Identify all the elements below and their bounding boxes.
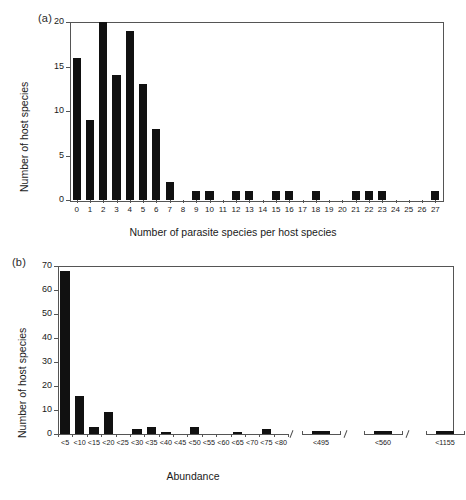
panel-a-x-tick-mark (77, 200, 78, 203)
panel-b-x-tick-mark (259, 434, 260, 437)
panel-a-x-tick-mark (342, 200, 343, 203)
panel-a-x-tick-mark (130, 200, 131, 203)
panel-a-bar (352, 191, 360, 200)
panel-a-x-tick-mark (409, 200, 410, 203)
figure-two-panel-histograms: (a) Number of host species 05101520 0123… (0, 0, 466, 500)
panel-a-x-axis-label: Number of parasite species per host spec… (0, 226, 466, 238)
panel-a-x-tick-mark (249, 200, 250, 203)
panel-a-bar (73, 58, 81, 200)
panel-b-x-tick-mark (58, 434, 59, 437)
panel-b-break-label: <1155 (425, 438, 465, 447)
panel-a-x-tick-mark (329, 200, 330, 203)
panel-b-y-tick-label: 50 (42, 308, 52, 319)
panel-b-x-tick-mark (231, 434, 232, 437)
panel-b-y-tick-mark (54, 410, 58, 411)
panel-b-break-segment-cap (464, 431, 465, 435)
panel-b-x-tick-mark (187, 434, 188, 437)
panel-b-break-segment-axis (364, 434, 402, 435)
panel-a-x-tick-mark (316, 200, 317, 203)
panel-b-x-tick-mark (288, 434, 289, 437)
panel-a-x-tick-mark (435, 200, 436, 203)
panel-a-y-tick-mark (66, 22, 70, 23)
panel-a-x-tick-mark (223, 200, 224, 203)
panel-b-label: (b) (12, 256, 26, 268)
panel-b: (b) Number of host species 0102030405060… (0, 250, 466, 500)
panel-a-y-tick-label: 15 (54, 61, 64, 72)
panel-b-break-segment-cap (302, 431, 303, 435)
panel-b-break-label: <495 (301, 438, 341, 447)
panel-a-bar (192, 191, 200, 200)
panel-b-y-tick-label: 20 (42, 380, 52, 391)
panel-a-bar (86, 120, 94, 200)
panel-b-break-segment-cap (402, 431, 403, 435)
panel-b-y-tick-label: 60 (42, 284, 52, 295)
panel-b-bar (190, 427, 199, 434)
panel-b-y-axis-label: Number of host species (16, 328, 28, 438)
panel-b-y-tick-mark (54, 266, 58, 267)
panel-b-x-tick-mark (202, 434, 203, 437)
panel-a-x-tick-mark (276, 200, 277, 203)
panel-a-bar (232, 191, 240, 200)
panel-b-bar (89, 427, 98, 434)
panel-a-x-tick-mark (156, 200, 157, 203)
panel-b-break-bar (436, 431, 454, 434)
panel-b-x-tick-mark (101, 434, 102, 437)
panel-a-x-tick-mark (103, 200, 104, 203)
panel-a-x-tick-mark (396, 200, 397, 203)
panel-a-x-tick-mark (183, 200, 184, 203)
panel-a-bar (112, 75, 120, 200)
panel-a-bar (205, 191, 213, 200)
panel-a-bar (152, 129, 160, 200)
panel-b-break-segment-cap (364, 431, 365, 435)
panel-b-x-tick-mark (274, 434, 275, 437)
panel-b-y-tick-label: 40 (42, 332, 52, 343)
panel-b-x-tick-mark (130, 434, 131, 437)
panel-a-x-tick-mark (90, 200, 91, 203)
panel-a-bar (378, 191, 386, 200)
panel-b-bar (60, 271, 69, 434)
panel-a-x-tick-mark (356, 200, 357, 203)
panel-a-bar (139, 84, 147, 200)
panel-b-y-tick-label: 10 (42, 404, 52, 415)
panel-b-break-bar (374, 431, 392, 434)
panel-a-x-tick-mark (117, 200, 118, 203)
panel-b-y-tick-mark (54, 386, 58, 387)
panel-a-y-tick-label: 10 (54, 105, 64, 116)
panel-b-break-segment-cap (426, 431, 427, 435)
panel-b-bar (75, 396, 84, 434)
panel-b-break-segment-axis (426, 434, 464, 435)
panel-a-x-tick-mark (170, 200, 171, 203)
panel-a-bar (272, 191, 280, 200)
panel-b-x-tick-label: <80 (267, 438, 295, 448)
panel-a-x-tick-mark (382, 200, 383, 203)
panel-a-bar (245, 191, 253, 200)
panel-a-y-tick-mark (66, 111, 70, 112)
panel-a-x-tick-mark (236, 200, 237, 203)
panel-b-break-segment-cap (340, 431, 341, 435)
panel-a-bar (312, 191, 320, 200)
panel-a-y-tick-mark (66, 156, 70, 157)
panel-a-x-tick-mark (303, 200, 304, 203)
panel-a-y-tick-label: 5 (59, 150, 64, 161)
panel-b-break-label: <560 (363, 438, 403, 447)
panel-a-x-tick-mark (210, 200, 211, 203)
panel-b-x-tick-mark (216, 434, 217, 437)
panel-a-x-tick-mark (289, 200, 290, 203)
panel-b-x-axis-label: Abundance (0, 470, 426, 482)
panel-b-y-tick-mark (54, 314, 58, 315)
panel-a-bar (126, 31, 134, 200)
panel-a-x-tick-mark (422, 200, 423, 203)
panel-b-bar (147, 427, 156, 434)
panel-b-x-tick-mark (159, 434, 160, 437)
panel-a-bar (365, 191, 373, 200)
panel-b-x-tick-mark (144, 434, 145, 437)
panel-b-x-tick-mark (173, 434, 174, 437)
panel-b-y-tick-label: 70 (42, 260, 52, 271)
panel-b-break-bar (312, 431, 330, 434)
panel-a-x-tick-mark (369, 200, 370, 203)
panel-a-bar (285, 191, 293, 200)
panel-a-bar (99, 22, 107, 200)
panel-b-x-tick-mark (87, 434, 88, 437)
panel-a-x-tick-mark (196, 200, 197, 203)
panel-a-y-axis-label: Number of host species (18, 82, 30, 192)
